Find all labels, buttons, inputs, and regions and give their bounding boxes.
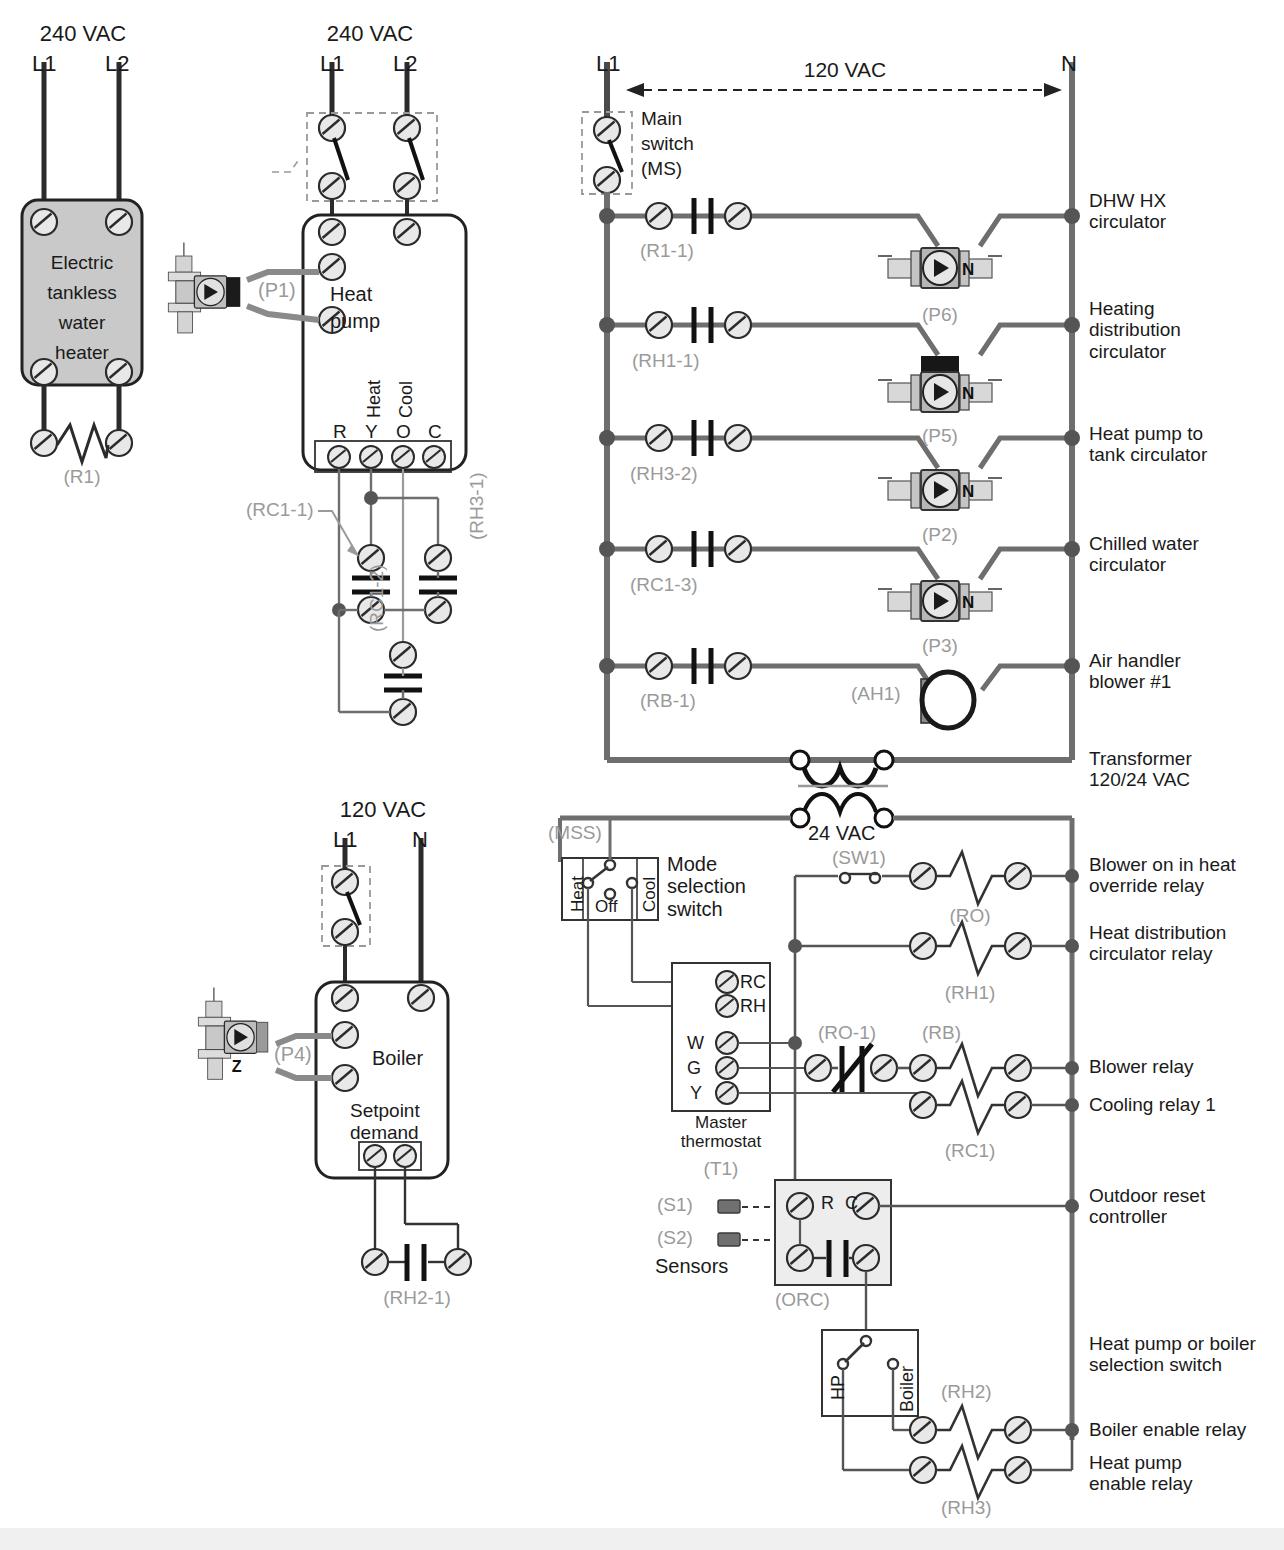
contact-tag-rc1-2: (RC1-2) bbox=[366, 564, 387, 632]
water-heater-box-line-1: Electric bbox=[22, 252, 142, 273]
orc-terminal-c: C bbox=[845, 1193, 858, 1213]
heat-pump-function-heat: Heat bbox=[364, 380, 384, 418]
contact-tag-rh3-1: (RH3-1) bbox=[466, 472, 487, 540]
coil-tag-rb: (RB) bbox=[922, 1022, 961, 1043]
heat-pump-terminal-r: R bbox=[333, 421, 347, 442]
hp-boiler-switch-position-boiler: Boiler bbox=[897, 1366, 917, 1412]
main-switch-line-1: Main bbox=[641, 108, 682, 129]
rung-label-chilled-water-circulator: Chilled water circulator bbox=[1089, 533, 1199, 576]
bottom-strip bbox=[0, 1528, 1284, 1550]
water-heater-box-line-3: water bbox=[22, 312, 142, 333]
thermostat-terminal-y: Y bbox=[690, 1083, 702, 1103]
rung-air-handler-blower bbox=[599, 648, 1080, 728]
heat-pump-box-line-2: pump bbox=[330, 310, 380, 332]
device-tag-p3: (P3) bbox=[885, 635, 995, 656]
rung-label-blower-override-relay: Blower on in heat override relay bbox=[1089, 854, 1236, 897]
thermostat-caption: Master thermostat bbox=[663, 1113, 779, 1151]
relay-tag-r1: (R1) bbox=[22, 466, 142, 487]
rung-label-heating-distribution-circulator: Heating distribution circulator bbox=[1089, 298, 1181, 362]
water-heater-box-line-2: tankless bbox=[22, 282, 142, 303]
contact-tag-rh1-1: (RH1-1) bbox=[632, 350, 700, 371]
outdoor-reset-controller bbox=[718, 1180, 1079, 1340]
main-switch-line-2: switch bbox=[641, 133, 694, 154]
contact-tag-rh3-2: (RH3-2) bbox=[630, 463, 698, 484]
contact-tag-rc1-3: (RC1-3) bbox=[630, 574, 698, 595]
boiler-setpoint-line-2: demand bbox=[350, 1122, 419, 1143]
circulator-tag-p1: (P1) bbox=[258, 279, 296, 301]
water-heater-l2-label: L2 bbox=[105, 52, 129, 77]
water-heater-supply-label: 240 VAC bbox=[18, 22, 148, 47]
transformer-label: Transformer 120/24 VAC bbox=[1089, 748, 1192, 791]
sensors-label: Sensors bbox=[655, 1255, 728, 1277]
rung-label-heat-distribution-relay: Heat distribution circulator relay bbox=[1089, 922, 1226, 965]
thermostat-terminal-g: G bbox=[687, 1058, 701, 1078]
coil-tag-rh2: (RH2) bbox=[941, 1381, 992, 1402]
boiler-n-label: N bbox=[412, 828, 428, 853]
rung-label-hp-boiler-selection-switch: Heat pump or boiler selection switch bbox=[1089, 1333, 1256, 1376]
sensor-tag-s1: (S1) bbox=[657, 1194, 693, 1215]
mode-switch-caption: Mode selection switch bbox=[667, 853, 746, 920]
rung-boiler-enable-relay bbox=[910, 1406, 1079, 1458]
contact-tag-ro-1: (RO-1) bbox=[818, 1022, 876, 1043]
wiring-diagram-canvas: N bbox=[0, 0, 1284, 1550]
thermostat-tag: (T1) bbox=[663, 1158, 779, 1179]
rung-label-heat-pump-to-tank-circulator: Heat pump to tank circulator bbox=[1089, 423, 1207, 466]
coil-tag-rh1: (RH1) bbox=[920, 982, 1020, 1003]
rung-label-heat-pump-enable-relay: Heat pump enable relay bbox=[1089, 1452, 1193, 1495]
heat-pump-supply-label: 240 VAC bbox=[305, 22, 435, 47]
rung-label-boiler-enable-relay: Boiler enable relay bbox=[1089, 1419, 1246, 1440]
heat-pump-l1-label: L1 bbox=[320, 52, 344, 77]
switch-tag-sw1: (SW1) bbox=[832, 847, 886, 868]
rung-heat-pump-enable-relay bbox=[910, 1430, 1072, 1498]
ladder-n-label: N bbox=[1061, 52, 1077, 77]
thermostat-terminal-w: W bbox=[687, 1033, 704, 1053]
mode-switch-position-heat: Heat bbox=[568, 876, 587, 912]
contact-tag-rc1-1: (RC1-1) bbox=[246, 499, 314, 520]
rung-blower-relay bbox=[805, 1044, 1079, 1096]
rung-label-blower-relay: Blower relay bbox=[1089, 1056, 1194, 1077]
circulator-tag-p4: (P4) bbox=[274, 1043, 312, 1065]
boiler-box-label: Boiler bbox=[372, 1047, 423, 1069]
heat-pump-box-line-1: Heat bbox=[330, 283, 372, 305]
rung-label-air-handler-blower: Air handler blower #1 bbox=[1089, 650, 1181, 693]
heat-pump-function-cool: Cool bbox=[396, 381, 416, 418]
coil-tag-rh3: (RH3) bbox=[941, 1497, 992, 1518]
thermostat-terminal-rc: RC bbox=[740, 972, 766, 992]
heat-pump-l2-label: L2 bbox=[393, 52, 417, 77]
svg-text:Z: Z bbox=[232, 1057, 242, 1075]
sensor-tag-s2: (S2) bbox=[657, 1227, 693, 1248]
mode-switch-tag: (MSS) bbox=[548, 822, 602, 843]
ladder-voltage-label: 120 VAC bbox=[780, 58, 910, 82]
device-tag-ah1: (AH1) bbox=[851, 683, 901, 704]
mode-switch-position-cool: Cool bbox=[640, 877, 659, 912]
device-tag-p6: (P6) bbox=[885, 304, 995, 325]
contact-tag-rb-1: (RB-1) bbox=[640, 690, 696, 711]
heat-pump-terminal-o: O bbox=[396, 421, 411, 442]
main-switch-line-3: (MS) bbox=[641, 158, 682, 179]
heat-pump-terminal-c: C bbox=[428, 421, 442, 442]
heat-pump-circuit bbox=[168, 62, 466, 725]
contact-tag-r1-1: (R1-1) bbox=[640, 240, 694, 261]
boiler-circuit: Z bbox=[198, 838, 471, 1281]
rung-label-dhw-hx-circulator: DHW HX circulator bbox=[1089, 190, 1166, 233]
rung-heat-distribution-relay bbox=[788, 922, 1079, 974]
coil-tag-ro: (RO) bbox=[920, 905, 1020, 926]
heat-pump-terminal-y: Y bbox=[365, 421, 378, 442]
coil-tag-rc1: (RC1) bbox=[920, 1140, 1020, 1161]
thermostat-terminal-rh: RH bbox=[740, 996, 766, 1016]
contact-tag-rh2-1: (RH2-1) bbox=[352, 1287, 482, 1308]
hp-boiler-switch-position-hp: HP bbox=[828, 1375, 848, 1400]
device-tag-p5: (P5) bbox=[885, 425, 995, 446]
orc-tag: (ORC) bbox=[775, 1289, 830, 1310]
ladder-120vac bbox=[560, 62, 1080, 827]
rung-cooling-relay bbox=[910, 1081, 1079, 1133]
rung-label-cooling-relay: Cooling relay 1 bbox=[1089, 1094, 1216, 1115]
water-heater-l1-label: L1 bbox=[32, 52, 56, 77]
water-heater-box-line-4: heater bbox=[22, 342, 142, 363]
transformer-secondary-label: 24 VAC bbox=[808, 822, 875, 844]
boiler-setpoint-line-1: Setpoint bbox=[350, 1100, 420, 1121]
rung-label-outdoor-reset-controller: Outdoor reset controller bbox=[1089, 1185, 1205, 1228]
boiler-l1-label: L1 bbox=[333, 828, 357, 853]
boiler-supply-label: 120 VAC bbox=[318, 798, 448, 823]
device-tag-p2: (P2) bbox=[885, 524, 995, 545]
